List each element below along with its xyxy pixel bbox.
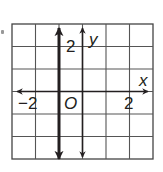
coordinate-plane: 2 y x −2 O 2 [0,0,163,172]
x-axis-label: x [138,71,148,90]
y-axis-label: y [88,30,99,49]
x-tick-label-neg2: −2 [18,94,37,113]
x-tick-label-2: 2 [124,94,133,113]
origin-label: O [64,94,77,113]
y-tick-label-2: 2 [66,37,75,56]
